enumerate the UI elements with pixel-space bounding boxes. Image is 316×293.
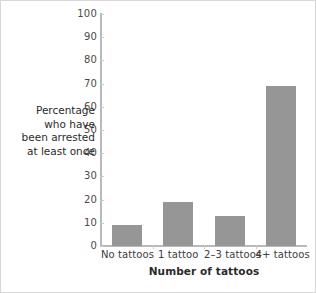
y-axis-title: Percentagewho havebeen arrestedat least … bbox=[7, 104, 95, 158]
bar bbox=[163, 202, 193, 246]
y-axis-tick-label: 90 bbox=[71, 32, 97, 42]
x-axis-tick-label: 4+ tattoos bbox=[256, 249, 308, 261]
y-axis-tick-label: 80 bbox=[71, 55, 97, 65]
y-axis-tick-label: 100 bbox=[71, 9, 97, 19]
y-axis-tick-label: 10 bbox=[71, 218, 97, 228]
bar bbox=[266, 86, 296, 246]
y-axis-tick-label: 20 bbox=[71, 195, 97, 205]
x-axis-tick-labels: No tattoos1 tattoo2–3 tattoos4+ tattoos bbox=[101, 249, 307, 265]
y-axis-tick-label: 70 bbox=[71, 79, 97, 89]
y-axis-tick-label: 30 bbox=[71, 171, 97, 181]
y-axis-title-line: been arrested bbox=[7, 131, 95, 145]
x-axis-tick-label: 2–3 tattoos bbox=[204, 249, 256, 261]
bar bbox=[215, 216, 245, 246]
x-axis-tick-label: 1 tattoo bbox=[153, 249, 205, 261]
y-axis-title-line: at least once bbox=[7, 145, 95, 159]
y-axis-title-line: Percentage bbox=[7, 104, 95, 118]
x-axis-tick-mark bbox=[204, 245, 205, 249]
x-axis-title: Number of tattoos bbox=[101, 265, 307, 277]
bar-series bbox=[101, 14, 307, 246]
x-axis-tick-label: No tattoos bbox=[101, 249, 153, 261]
y-axis-tick-label: 0 bbox=[71, 241, 97, 251]
x-axis-tick-mark bbox=[153, 245, 154, 249]
bar bbox=[112, 225, 142, 246]
y-axis-title-line: who have bbox=[7, 118, 95, 132]
x-axis-tick-mark bbox=[256, 245, 257, 249]
bar-chart-figure: 0102030405060708090100 No tattoos1 tatto… bbox=[0, 0, 316, 293]
y-axis-tick-mark bbox=[100, 246, 104, 247]
